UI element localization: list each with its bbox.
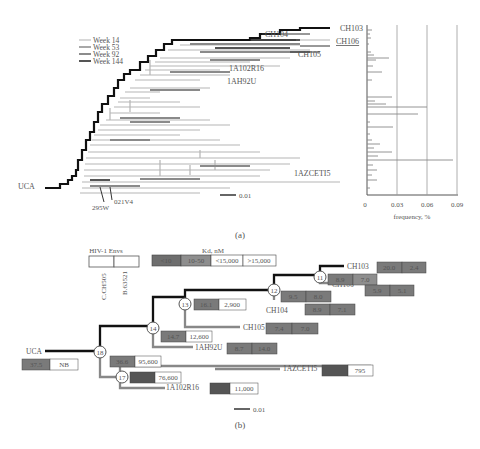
- svg-text:20.0: 20.0: [383, 264, 396, 272]
- svg-text:9.5: 9.5: [289, 293, 298, 301]
- frequency-histogram: [367, 25, 458, 195]
- tip-b-1a102r16: 1A102R16: [166, 383, 199, 392]
- tip-label-uca: UCA: [18, 182, 35, 191]
- svg-text:7.4: 7.4: [275, 325, 284, 333]
- svg-text:7.0: 7.0: [301, 325, 310, 333]
- week-legend: Week 14 Week 53 Week 92 Week 144: [79, 36, 123, 66]
- svg-text:5.1: 5.1: [138, 374, 147, 382]
- hist-xlabel: frequency, %: [394, 213, 431, 221]
- hist-tick-009: 0.09: [451, 201, 464, 209]
- tip-b-1azceti5: 1AZCETI5: [283, 364, 317, 373]
- hist-tick-0: 0: [363, 201, 367, 209]
- svg-text:795: 795: [355, 367, 366, 375]
- svg-text:12: 12: [271, 287, 279, 295]
- caption-a: (a): [235, 230, 245, 240]
- kd-legend-title: Kd, nM: [202, 247, 225, 255]
- tip-label-ch105: CH105: [298, 50, 321, 59]
- envs-col-cch505: C.CH505: [100, 273, 108, 300]
- svg-text:9.0: 9.0: [331, 367, 340, 375]
- svg-text:11: 11: [317, 274, 324, 282]
- tip-label-021v4: 021V4: [114, 198, 134, 206]
- svg-text:14: 14: [150, 325, 158, 333]
- node-11: 11: [314, 271, 326, 283]
- tip-b-1ah92u: 1AH92U: [195, 343, 223, 352]
- tip-b-ch104: CH104: [266, 306, 288, 315]
- svg-text:37.5: 37.5: [30, 361, 43, 369]
- tip-label-1azceti5: 1AZCETI5: [294, 169, 330, 178]
- node-14: 14: [147, 322, 159, 334]
- envs-legend-title: HIV-1 Envs: [89, 247, 123, 255]
- tip-b-ch103: CH103: [347, 262, 369, 271]
- svg-text:18: 18: [97, 349, 105, 357]
- svg-text:11,000: 11,000: [235, 385, 254, 393]
- tip-label-ch103: CH103: [340, 24, 363, 33]
- hist-tick-006: 0.06: [421, 201, 434, 209]
- svg-text:8.7: 8.7: [235, 345, 244, 353]
- svg-text:2.4: 2.4: [410, 264, 419, 272]
- svg-text:76,600: 76,600: [158, 374, 178, 382]
- svg-text:12,600: 12,600: [189, 333, 209, 341]
- kd-bin-gt15000: >15,000: [247, 257, 271, 265]
- node-18: 18: [94, 346, 106, 358]
- caption-b: (b): [235, 420, 246, 430]
- svg-text:14.0: 14.0: [258, 345, 271, 353]
- scale-bar-b-label: 0.01: [253, 406, 266, 414]
- svg-text:7.1: 7.1: [338, 306, 347, 314]
- envs-col-b63521: B.63521: [121, 271, 129, 295]
- lineage-tree-b: [45, 266, 370, 388]
- svg-text:8.9: 8.9: [336, 276, 345, 284]
- svg-text:7.0: 7.0: [361, 276, 370, 284]
- svg-text:2.5: 2.5: [216, 385, 225, 393]
- tip-b-uca: UCA: [26, 347, 42, 356]
- svg-text:2,900: 2,900: [224, 301, 240, 309]
- node-17: 17: [116, 371, 128, 383]
- svg-text:14.7: 14.7: [167, 333, 180, 341]
- svg-text:8.9: 8.9: [313, 306, 322, 314]
- svg-text:5.9: 5.9: [373, 287, 382, 295]
- svg-text:95,600: 95,600: [138, 358, 158, 366]
- svg-text:NB: NB: [59, 361, 69, 369]
- svg-text:17: 17: [119, 374, 127, 382]
- legend-week144: Week 144: [93, 57, 123, 66]
- tip-label-295w: 295W: [92, 204, 110, 212]
- tip-b-ch105: CH105: [243, 323, 265, 332]
- tip-label-1ah92u: 1AH92U: [227, 77, 257, 86]
- svg-text:13: 13: [182, 301, 190, 309]
- svg-text:16.1: 16.1: [200, 301, 213, 309]
- kd-bin-10-50: 10-50: [188, 257, 205, 265]
- node-12: 12: [268, 284, 280, 296]
- figure-canvas: Week 14 Week 53 Week 92 Week 144 CH103 C…: [0, 0, 480, 449]
- tip-label-ch104: CH104: [265, 30, 288, 39]
- tip-label-1a102r16: 1A102R16: [229, 64, 264, 73]
- svg-text:5.1: 5.1: [398, 287, 407, 295]
- svg-text:36.6: 36.6: [116, 358, 129, 366]
- tip-label-ch106: CH106: [336, 37, 359, 46]
- scale-bar-a-label: 0.01: [239, 192, 252, 200]
- kd-bin-lt15000: <15,000: [215, 257, 239, 265]
- node-13: 13: [179, 298, 191, 310]
- svg-text:8.0: 8.0: [314, 293, 323, 301]
- kd-bin-lt10: <10: [161, 257, 172, 265]
- hist-tick-003: 0.03: [391, 201, 404, 209]
